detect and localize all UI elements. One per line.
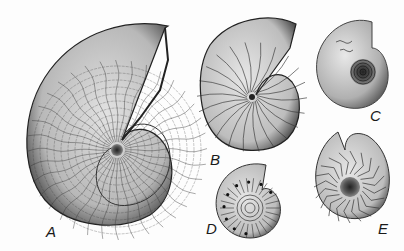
specimen-b-shell [200, 18, 299, 150]
plate-illustration [0, 0, 404, 251]
tubercle [222, 205, 225, 208]
specimen-c-shell [317, 20, 389, 108]
label-b: B [210, 152, 220, 167]
tubercle [226, 193, 229, 196]
tubercle [247, 180, 250, 183]
specimen-d [216, 164, 280, 238]
specimen-e [314, 132, 389, 223]
tubercle [269, 191, 272, 194]
tubercle [225, 217, 228, 220]
specimen-c [317, 20, 389, 108]
specimen-a-umbilicus [111, 144, 123, 156]
tubercle [235, 184, 238, 187]
label-c: C [370, 108, 381, 123]
specimen-a [27, 24, 207, 240]
label-d: D [206, 221, 217, 236]
specimen-b-umbilicus [249, 94, 255, 100]
tubercle [233, 227, 236, 230]
specimen-e-umbilicus [340, 177, 360, 197]
label-e: E [378, 221, 388, 236]
label-a: A [46, 224, 56, 239]
specimen-d-shell [216, 164, 280, 238]
tubercle [244, 232, 247, 235]
ammonite-plate: A B C D E [0, 0, 404, 251]
specimen-b [197, 18, 307, 151]
tubercle [259, 183, 262, 186]
